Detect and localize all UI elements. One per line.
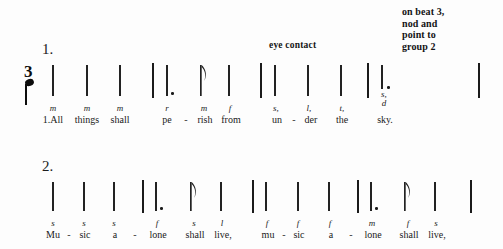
final-barline [478,63,480,98]
eye-contact-cue: eye contact [269,40,316,50]
lyric-syllable: sic [79,229,90,240]
augmentation-dot [160,207,163,210]
solfa-syllable: f [266,218,269,228]
lyric-hyphen: - [133,229,136,240]
solfa-syllable: f [229,103,232,113]
lyric-syllable: Mu [46,229,60,240]
barline [142,180,144,213]
lyric-hyphen: - [67,229,70,240]
system-1-number: 1. [42,41,53,58]
eighth-note-flag-icon [404,181,411,196]
performance-annotation: on beat 3, nod and point to group 2 [402,6,444,52]
note-stem [307,65,309,96]
note-stem [297,182,299,211]
solfa-syllable: s [112,218,116,228]
time-signature-numerator: 3 [24,63,33,80]
augmentation-dot [387,86,390,89]
eighth-note-flag-icon [200,64,207,79]
lyric-syllable: sky. [377,114,393,125]
lyric-syllable: live, [214,229,232,240]
solfa-syllable: f [297,218,300,228]
note-stem [274,65,276,96]
solfa-syllable: m [84,103,91,113]
solfa-syllable: s [434,218,438,228]
solfa-syllable: l, [307,103,312,113]
note-stem [86,65,88,96]
note-stem [220,182,222,211]
note-stem [113,182,115,211]
lyric-hyphen: - [349,229,352,240]
lyric-syllable: lone [149,229,166,240]
note-stem [265,182,267,211]
quarter-note-stem-icon [25,84,27,105]
note-stem [83,182,85,211]
lyric-syllable: sic [293,229,304,240]
solfa-syllable: l [221,218,224,228]
augmentation-dot [375,207,378,210]
lyric-hyphen: - [292,114,295,125]
barline [152,63,154,98]
solfa-syllable: f [407,218,410,228]
lyric-hyphen: - [282,229,285,240]
lyric-syllable: the [336,114,348,125]
barline [367,63,369,98]
lyric-syllable: rish [198,114,213,125]
note-stem [381,65,383,89]
note-stem [119,65,121,96]
lyric-syllable: un [272,114,282,125]
solfa-syllable: s [51,218,55,228]
lyric-syllable: shall [111,114,130,125]
solfa-syllable: t, [340,103,345,113]
solfa-syllable: s, [273,103,279,113]
lyric-syllable: lone [364,229,381,240]
solfa-syllable: s [192,218,196,228]
time-signature: 3 [24,63,40,103]
lyric-syllable: live, [428,229,446,240]
barline [357,180,359,213]
note-stem [434,182,436,211]
note-stem [155,182,157,211]
eighth-note-flag-icon [190,181,197,196]
solfa-syllable: m [117,103,124,113]
lyric-hyphen: - [184,114,187,125]
solfa-syllable: r [165,103,169,113]
solfa-syllable: s [82,218,86,228]
solfa-syllable: m [201,103,208,113]
lyric-syllable: a [113,229,117,240]
final-barline [470,180,472,213]
lyric-syllable: der [305,114,318,125]
note-stem [166,65,168,96]
lyric-syllable: shall [400,229,419,240]
note-stem [370,182,372,211]
note-stem [340,65,342,96]
lyric-syllable: 1.All [43,114,63,125]
sheet-music-page: on beat 3, nod and point to group 2 1. e… [0,0,503,249]
lyric-syllable: things [75,114,99,125]
note-stem [328,182,330,211]
lyric-syllable: shall [186,229,205,240]
augmentation-dot [171,92,174,95]
barline [260,63,262,98]
solfa-syllable: m [50,103,57,113]
lyric-syllable: pe [162,114,171,125]
system-2-number: 2. [42,158,53,175]
barline [252,180,254,213]
solfa-syllable: f [329,218,332,228]
solfa-lower-octave: d [382,98,387,108]
lyric-syllable: from [221,114,240,125]
lyric-syllable: a [329,229,333,240]
note-stem [228,65,230,96]
solfa-syllable: f [156,218,159,228]
lyric-syllable: mu [262,229,275,240]
solfa-syllable: m [369,218,376,228]
note-stem [52,65,54,96]
note-stem [52,182,54,211]
